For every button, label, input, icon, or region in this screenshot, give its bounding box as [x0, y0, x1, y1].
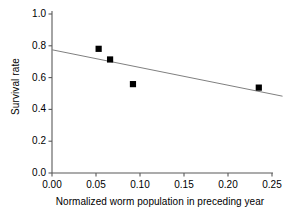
- data-markers: [96, 46, 262, 91]
- data-point-marker: [96, 46, 102, 52]
- chart-figure: Survival rate Normalized worm population…: [0, 0, 286, 217]
- axis-lines: [52, 11, 273, 173]
- data-point-marker: [256, 85, 262, 91]
- data-point-marker: [130, 81, 136, 87]
- trend-line: [52, 50, 283, 96]
- data-point-marker: [107, 56, 113, 62]
- trend-line-segment: [52, 50, 283, 96]
- axis-ticks: [49, 14, 273, 177]
- plot-canvas: [0, 0, 286, 217]
